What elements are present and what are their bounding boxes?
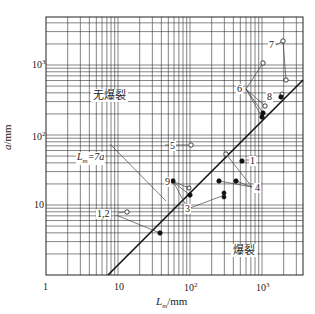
x-tick-1000-base: 10 [256, 282, 266, 293]
point-3-filled [222, 191, 226, 195]
x-axis-title: Lm/mm [156, 296, 187, 310]
x-tick-1000: 103 [256, 282, 270, 293]
annotation-8: 8 [266, 92, 273, 102]
y-tick-100: 102 [32, 131, 46, 142]
y-tick-1000: 103 [32, 59, 46, 70]
region-label-no-burst: 无爆裂 [91, 89, 128, 102]
point-6-open [261, 61, 265, 65]
reference-line-lm-7a [108, 80, 303, 275]
y-axis-symbol: a [1, 145, 13, 151]
point-3-filled [171, 179, 175, 183]
point-9-open [187, 186, 191, 190]
annotation-9: 9 [164, 177, 171, 187]
point-9-filled [188, 193, 192, 197]
annotation-7: 7 [268, 40, 275, 50]
x-tick-10: 10 [114, 282, 124, 292]
reference-line-label: Lm=7a [76, 152, 105, 165]
annotation-4: 4 [254, 183, 261, 193]
x-axis-unit: /mm [167, 295, 187, 307]
point-1-2-filled [158, 231, 162, 235]
annotation-1: 1 [249, 156, 256, 166]
leader-lines [110, 41, 286, 233]
point-7-open [281, 39, 285, 43]
y-tick-1000-base: 10 [32, 59, 42, 70]
point-5-open [189, 143, 193, 147]
point-3-filled [222, 195, 226, 199]
y-tick-100-exp: 2 [42, 130, 46, 138]
point-6-filled [260, 115, 264, 119]
point-4-open [224, 152, 228, 156]
point-6-open [263, 104, 267, 108]
x-tick-1: 1 [43, 282, 48, 292]
x-tick-100-exp: 2 [194, 281, 198, 289]
region-label-burst: 爆裂 [231, 244, 257, 257]
point-4-filled [217, 179, 221, 183]
x-tick-1000-exp: 3 [266, 281, 270, 289]
annotation-5: 5 [169, 141, 176, 151]
point-4-filled [234, 179, 238, 183]
y-tick-100-base: 10 [32, 131, 42, 142]
point-7-open [284, 78, 288, 82]
y-tick-10: 10 [34, 200, 44, 210]
annotation-6: 6 [236, 84, 243, 94]
x-tick-100-base: 10 [184, 282, 194, 293]
y-axis-title: a/mm [2, 124, 13, 150]
point-8-filled [279, 95, 283, 99]
point-1-2-open [125, 210, 129, 214]
point-1-filled [240, 159, 244, 163]
annotation-1-2: 1,2 [96, 209, 111, 219]
x-tick-100: 102 [184, 282, 198, 293]
line-label-rest: =7a [88, 151, 105, 162]
annotation-3: 3 [184, 204, 191, 214]
y-tick-1000-exp: 3 [42, 58, 46, 66]
y-axis-unit: /mm [1, 124, 13, 144]
